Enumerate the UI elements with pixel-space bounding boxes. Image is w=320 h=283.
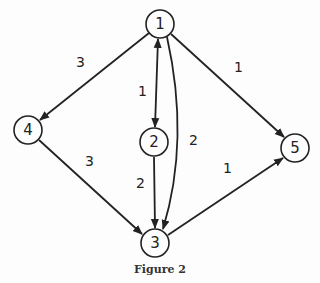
edge-1-5 — [171, 34, 284, 137]
edge-1-4 — [40, 33, 149, 120]
weight-label-1-3: 2 — [189, 132, 198, 148]
weight-label-2-3: 2 — [136, 175, 145, 191]
node-label: 5 — [290, 139, 300, 157]
node-1: 1 — [146, 10, 174, 38]
weight-label-4-3: 3 — [85, 153, 94, 169]
node-label: 1 — [155, 15, 165, 33]
edge-1-2 — [155, 39, 158, 127]
weight-label-3-5: 1 — [223, 160, 232, 176]
node-5: 5 — [281, 134, 309, 162]
node-3: 3 — [141, 229, 169, 257]
node-label: 3 — [150, 234, 160, 252]
weight-label-1-4: 3 — [76, 54, 85, 70]
weight-label-1-5: 1 — [234, 59, 243, 75]
edge-2-3 — [154, 157, 155, 228]
graph-diagram: 3 1 2 1 3 2 1 1 2 3 4 5 — [0, 0, 320, 283]
figure-caption: Figure 2 — [0, 263, 320, 276]
node-label: 4 — [23, 121, 33, 139]
node-2: 2 — [140, 128, 168, 156]
weight-label-1-2: 1 — [138, 83, 147, 99]
node-4: 4 — [14, 116, 42, 144]
node-label: 2 — [149, 133, 159, 151]
